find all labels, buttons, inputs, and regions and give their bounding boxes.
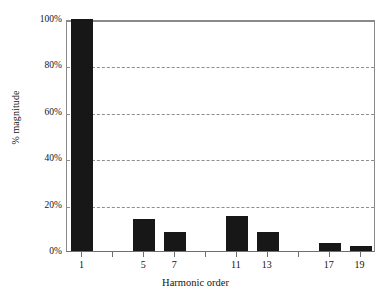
x-axis-tick-label: 7 — [154, 259, 194, 271]
harmonic-order-bar-chart: % magnitude 0%20%40%60%80%100% 157111317… — [0, 0, 391, 297]
x-axis-title: Harmonic order — [0, 277, 391, 288]
bar — [257, 232, 279, 251]
x-axis-tick — [360, 252, 361, 257]
x-axis-tick — [81, 252, 82, 257]
x-axis-tick — [329, 252, 330, 257]
y-axis-tick-label: 100% — [28, 15, 62, 25]
x-axis-tick — [298, 252, 299, 257]
x-axis-tick-label: 1 — [61, 259, 101, 271]
x-axis-tick — [236, 252, 237, 257]
bars-layer — [67, 21, 374, 251]
x-axis-tick — [205, 252, 206, 257]
bar — [71, 19, 93, 251]
y-axis-tick-label-group: 0%20%40%60%80%100% — [18, 0, 62, 297]
bar — [164, 232, 186, 251]
x-axis-tick-label-group: 15711131719 — [66, 259, 375, 275]
plot-area — [66, 20, 375, 252]
bar — [319, 243, 341, 251]
x-axis-tick — [174, 252, 175, 257]
bar — [133, 219, 155, 251]
x-axis-tick-label: 19 — [340, 259, 380, 271]
x-axis-tick-label: 13 — [247, 259, 287, 271]
x-axis-tick — [143, 252, 144, 257]
bar — [226, 216, 248, 251]
y-axis-tick-label: 40% — [28, 154, 62, 164]
y-axis-tick-label: 80% — [28, 61, 62, 71]
bar — [350, 246, 372, 251]
y-axis-tick-label: 0% — [28, 247, 62, 257]
y-axis-tick-label: 20% — [28, 201, 62, 211]
x-axis-tick — [267, 252, 268, 257]
y-axis-tick-label: 60% — [28, 108, 62, 118]
x-axis-tick — [112, 252, 113, 257]
